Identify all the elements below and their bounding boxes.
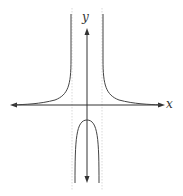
right-branch-curve [103,14,160,105]
y-axis-top-arrow-icon [85,28,90,35]
left-branch-curve [14,14,71,105]
graph [0,0,183,196]
y-axis-bottom-arrow-icon [85,176,90,183]
x-axis-label: x [166,97,173,111]
y-axis-label: y [82,10,89,24]
